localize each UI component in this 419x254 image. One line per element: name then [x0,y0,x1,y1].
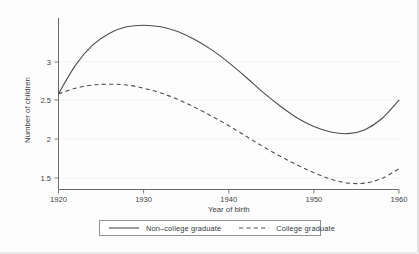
x-tick-label-1920: 1920 [50,195,67,204]
y-axis: 3 2.5 2 1.5 Number of children [23,18,59,189]
legend-label-college-graduate: College graduate [276,224,335,233]
line-chart-plot: 3 2.5 2 1.5 Number of children 1920 1930… [0,0,419,254]
x-axis-title: Year of birth [208,205,250,214]
y-tick-label-2: 2 [47,135,51,144]
legend-swatch-dashed [239,224,269,232]
x-tick-label-1940: 1940 [220,195,237,204]
y-axis-title: Number of children [23,77,32,143]
y-tick-label-2_5: 2.5 [40,96,51,105]
legend-swatch-solid [109,224,139,232]
x-tick-label-1930: 1930 [135,195,152,204]
y-tick-label-1_5: 1.5 [40,174,51,183]
x-tick-label-1950: 1950 [305,195,322,204]
legend-item-college-graduate: College graduate [239,221,335,235]
x-tick-label-1960: 1960 [391,195,408,204]
chart-figure: 3 2.5 2 1.5 Number of children 1920 1930… [0,0,419,254]
x-axis: 1920 1930 1940 1950 1960 Year of birth [50,190,407,215]
y-tick-label-3: 3 [47,58,51,67]
gridlines [59,62,400,178]
legend-item-non-college-graduate: Non–college graduate [109,221,221,235]
legend-label-non-college-graduate: Non–college graduate [146,224,221,233]
chart-legend: Non–college graduate College graduate [99,220,321,236]
series-line-non-college-graduate [59,25,400,134]
